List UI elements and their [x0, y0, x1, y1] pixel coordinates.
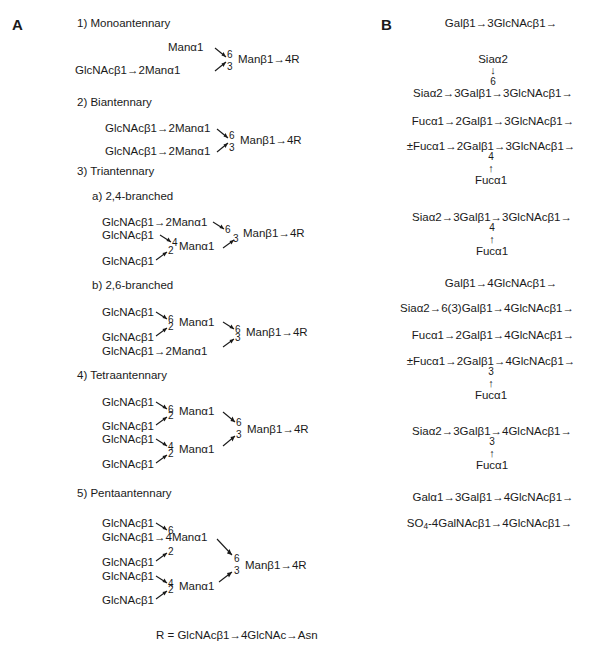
- tri26-man-upper: Manα1: [179, 316, 214, 328]
- b-entry-11: Galα1→3Galβ1→4GlcNAcβ1→: [400, 491, 586, 503]
- tri24-arm3: GlcNAcβ1: [102, 255, 154, 267]
- bi-pos-upper: 6: [229, 130, 235, 141]
- tetra-pos-upper: 6: [236, 417, 242, 428]
- tetra-pos-lower: 3: [236, 429, 242, 440]
- mono-pos-lower: 3: [227, 61, 233, 72]
- section-label-26-branched: b) 2,6-branched: [92, 279, 173, 291]
- panel-a-letter: A: [12, 16, 23, 33]
- penta-arm5: GlcNAcβ1: [102, 594, 154, 606]
- b-entry-4: ±Fucα1→2Galβ1→3GlcNAcβ1→ 4 ↑ Fucα1: [396, 140, 586, 186]
- b-entry-3: Fucα1→2Galβ1→3GlcNAcβ1→: [400, 115, 586, 127]
- mono-core: Manβ1→4R: [238, 53, 300, 65]
- tetra-arm3: GlcNAcβ1: [102, 433, 154, 445]
- b-entry-5-up-arrow-icon: ↑: [398, 234, 586, 246]
- tetra-pos-arm2: 2: [168, 410, 174, 421]
- mono-pos-upper: 6: [227, 49, 233, 60]
- penta-pos-lower: 3: [234, 565, 240, 576]
- b-entry-9-bottom: Fucα1: [396, 389, 586, 401]
- b-entry-6: Galβ1→4GlcNAcβ1→: [416, 277, 586, 289]
- b-entry-2-pos: 6: [400, 77, 586, 88]
- tri24-arm1: GlcNAcβ1→2Manα1: [102, 216, 207, 228]
- b-entry-9-pos: 3: [396, 367, 586, 378]
- b-entry-12-main-pre: SO: [407, 517, 424, 529]
- r-definition: R = GlcNAcβ1→4GlcNAc→Asn: [156, 629, 318, 641]
- penta-pos-arm3: 2: [168, 546, 174, 557]
- section-label-biantennary: 2) Biantennary: [77, 96, 152, 108]
- mono-lower-arm: GlcNAcβ1→2Manα1: [75, 64, 180, 76]
- bi-lower-arm: GlcNAcβ1→2Manα1: [105, 145, 210, 157]
- section-label-triantennary: 3) Triantennary: [77, 165, 154, 177]
- mono-upper-arm: Manα1: [168, 41, 203, 53]
- penta-pos-arm1: 6: [168, 525, 174, 536]
- b-entry-5: Siaα2→3Galβ1→3GlcNAcβ1→ 4 ↑ Fucα1: [398, 211, 586, 257]
- tetra-man-upper: Manα1: [179, 405, 214, 417]
- tri26-pos-arm3: 3: [235, 332, 241, 343]
- b-entry-8-main: Fucα1→2Galβ1→4GlcNAcβ1→: [400, 329, 586, 341]
- tri24-pos-arm1: 6: [225, 224, 231, 235]
- b-entry-1-main: Galβ1→3GlcNAcβ1→: [416, 17, 586, 29]
- b-entry-11-main: Galα1→3Galβ1→4GlcNAcβ1→: [400, 491, 586, 503]
- b-entry-4-pos: 4: [396, 152, 586, 163]
- section-label-tetraantennary: 4) Tetraantennary: [77, 369, 167, 381]
- bi-pos-lower: 3: [229, 142, 235, 153]
- b-entry-3-main: Fucα1→2Galβ1→3GlcNAcβ1→: [400, 115, 586, 127]
- penta-arm3: GlcNAcβ1: [102, 556, 154, 568]
- b-entry-9: ±Fucα1→2Galβ1→4GlcNAcβ1→ 3 ↑ Fucα1: [396, 355, 586, 401]
- tri24-pos-arm3: 2: [168, 245, 174, 256]
- tri24-man-lower: Manα1: [179, 240, 214, 252]
- b-entry-12: SO4-4GalNAcβ1→4GlcNAcβ1→: [393, 517, 586, 532]
- tetra-arm4: GlcNAcβ1: [102, 458, 154, 470]
- b-entry-8: Fucα1→2Galβ1→4GlcNAcβ1→: [400, 329, 586, 341]
- tri24-arm2: GlcNAcβ1: [102, 229, 154, 241]
- section-label-pentaantennary: 5) Pentaantennary: [77, 487, 172, 499]
- tetra-arm1: GlcNAcβ1: [102, 396, 154, 408]
- tri24-pos-core: 3: [233, 233, 239, 244]
- tri26-core: Manβ1→4R: [246, 326, 308, 338]
- b-entry-10-bottom: Fucα1: [398, 459, 586, 471]
- tri24-arrow-core: [222, 238, 242, 250]
- tri26-pos-arm2: 2: [168, 321, 174, 332]
- panel-b-letter: B: [381, 16, 392, 33]
- b-entry-7-main: Siaα2→6(3)Galβ1→4GlcNAcβ1→: [388, 302, 586, 314]
- bi-core: Manβ1→4R: [240, 134, 302, 146]
- b-entry-5-pos: 4: [398, 223, 586, 234]
- b-entry-10-up-arrow-icon: ↑: [398, 448, 586, 460]
- tri26-arm3: GlcNAcβ1→2Manα1: [102, 345, 207, 357]
- b-entry-4-bottom: Fucα1: [396, 174, 586, 186]
- b-entry-5-bottom: Fucα1: [398, 245, 586, 257]
- section-label-monoantennary: 1) Monoantennary: [77, 17, 170, 29]
- tri26-arm2: GlcNAcβ1: [102, 331, 154, 343]
- tetra-core: Manβ1→4R: [247, 423, 309, 435]
- penta-pos-upper: 6: [234, 553, 240, 564]
- penta-arm4: GlcNAcβ1: [102, 570, 154, 582]
- tri26-arm1: GlcNAcβ1: [102, 306, 154, 318]
- bi-upper-arm: GlcNAcβ1→2Manα1: [105, 122, 210, 134]
- tetra-man-lower: Manα1: [179, 443, 214, 455]
- b-entry-2-down-arrow-icon: ↓: [400, 65, 586, 77]
- tri24-core: Manβ1→4R: [243, 227, 305, 239]
- b-entry-12-main-post: -4GalNAcβ1→4GlcNAcβ1→: [428, 517, 572, 529]
- penta-man-lower: Manα1: [179, 580, 214, 592]
- b-entry-10: Siaα2→3Galβ1→4GlcNAcβ1→ 3 ↑ Fucα1: [398, 425, 586, 471]
- b-entry-4-up-arrow-icon: ↑: [396, 163, 586, 175]
- b-entry-1: Galβ1→3GlcNAcβ1→: [416, 17, 586, 29]
- b-entry-2: Siaα2 ↓ 6 Siaα2→3Galβ1→3GlcNAcβ1→: [400, 53, 586, 99]
- penta-pos-arm5: 2: [168, 584, 174, 595]
- b-entry-6-main: Galβ1→4GlcNAcβ1→: [416, 277, 586, 289]
- b-entry-12-main: SO4-4GalNAcβ1→4GlcNAcβ1→: [393, 517, 586, 532]
- b-entry-7: Siaα2→6(3)Galβ1→4GlcNAcβ1→: [388, 302, 586, 314]
- penta-core: Manβ1→4R: [245, 559, 307, 571]
- penta-arm2: GlcNAcβ1→4Manα1: [102, 531, 207, 543]
- section-label-24-branched: a) 2,4-branched: [92, 190, 173, 202]
- b-entry-10-pos: 3: [398, 437, 586, 448]
- b-entry-2-main: Siaα2→3Galβ1→3GlcNAcβ1→: [400, 87, 586, 99]
- penta-arm1: GlcNAcβ1: [102, 517, 154, 529]
- tetra-arm2: GlcNAcβ1: [102, 420, 154, 432]
- tetra-pos-arm4: 2: [168, 448, 174, 459]
- b-entry-9-up-arrow-icon: ↑: [396, 378, 586, 390]
